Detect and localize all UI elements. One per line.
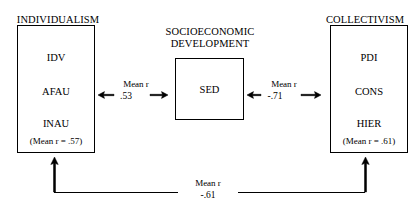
right-box-item-pdi: PDI (331, 52, 407, 64)
left-box-item-idv: IDV (18, 52, 94, 64)
right-box-item-hier: HIER (331, 118, 407, 130)
arrow-right-to-collectivism (300, 90, 322, 100)
left-box-item-inau: INAU (18, 118, 94, 130)
center-right-relation-label: Mean r (254, 79, 314, 90)
right-box-mean-r: (Mean r = .61) (331, 136, 407, 147)
bottom-connector-line-left (54, 192, 178, 193)
left-right-relation-label: Mean r (180, 178, 236, 189)
left-right-relation-value: -.61 (182, 190, 234, 201)
collectivism-box: PDI CONS HIER (Mean r = .61) (330, 25, 408, 153)
individualism-box: IDV AFAU INAU (Mean r = .57) (17, 25, 95, 153)
arrow-up-to-individualism (49, 156, 60, 193)
right-box-item-cons: CONS (331, 86, 407, 98)
left-box-mean-r: (Mean r = .57) (18, 136, 94, 147)
path-diagram: INDIVIDUALISM SOCIOECONOMIC DEVELOPMENT … (0, 0, 419, 213)
left-box-item-afau: AFAU (18, 86, 94, 98)
bottom-connector-line-right (238, 192, 365, 193)
center-construct-title-line2: DEVELOPMENT (159, 38, 261, 50)
arrow-left-to-individualism (97, 90, 115, 100)
arrow-up-to-collectivism (360, 156, 371, 193)
arrow-left-to-sed (246, 90, 262, 100)
center-right-relation-value: -.71 (258, 91, 292, 102)
center-box-item-sed: SED (176, 84, 243, 96)
sed-box: SED (175, 58, 244, 120)
left-center-relation-label: Mean r (106, 79, 166, 90)
center-construct-title-line1: SOCIOECONOMIC (159, 26, 261, 38)
arrow-right-to-sed (149, 90, 169, 100)
